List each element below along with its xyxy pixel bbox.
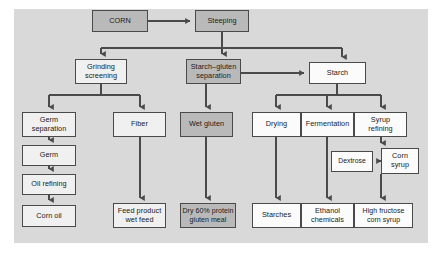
node-wet-gluten[interactable]: Wet gluten [180,112,233,137]
node-starch[interactable]: Starch [309,62,366,84]
node-feed-product-wet-feed[interactable]: Feed productwet feed [113,203,166,228]
node-ethanol-chemicals[interactable]: Ethanolchemicals [301,203,354,228]
node-high-fructose-corn-syrup[interactable]: High fructosecorn syrup [354,203,413,228]
node-grinding-screening[interactable]: Grindingscreening [75,59,127,84]
flowchart-canvas: CORN Steeping Grindingscreening Starch–g… [0,0,439,253]
node-starch-label: Starch [327,69,348,78]
node-starch-gluten-separation[interactable]: Starch–glutenseparation [186,59,241,84]
node-feed-product-wet-feed-label: Feed productwet feed [118,207,162,224]
node-corn-syrup-label: Cornsyrup [391,152,409,169]
node-steeping-label: Steeping [207,17,236,26]
node-germ-separation[interactable]: Germseparation [22,112,76,137]
node-fiber-label: Fiber [131,120,148,129]
node-oil-refining-label: Oil refining [31,180,66,189]
node-syrup-refining-label: Syruprefining [368,116,392,133]
node-high-fructose-corn-syrup-label: High fructosecorn syrup [363,207,405,224]
node-dextrose-label: Dextrose [338,157,366,166]
node-fiber[interactable]: Fiber [113,112,166,137]
node-steeping[interactable]: Steeping [195,10,249,32]
node-oil-refining[interactable]: Oil refining [22,174,76,195]
node-gluten-meal-label: Dry 60% proteingluten meal [183,207,234,224]
node-ethanol-chemicals-label: Ethanolchemicals [311,207,344,224]
node-gluten-meal[interactable]: Dry 60% proteingluten meal [180,203,236,228]
node-syrup-refining[interactable]: Syruprefining [354,112,407,137]
node-starches[interactable]: Starches [252,203,301,228]
node-corn[interactable]: CORN [92,10,148,32]
node-corn-oil-label: Corn oil [36,212,62,221]
node-starch-gluten-separation-label: Starch–glutenseparation [191,63,237,80]
node-germ-label: Germ [40,151,58,160]
node-germ[interactable]: Germ [22,145,76,166]
node-grinding-screening-label: Grindingscreening [85,63,117,80]
node-fermentation[interactable]: Fermentation [301,112,354,137]
node-drying-label: Drying [266,120,287,129]
node-starches-label: Starches [262,211,291,220]
node-corn-syrup[interactable]: Cornsyrup [381,148,419,174]
node-wet-gluten-label: Wet gluten [189,120,224,129]
node-fermentation-label: Fermentation [306,120,350,129]
node-dextrose[interactable]: Dextrose [331,151,373,172]
node-corn-oil[interactable]: Corn oil [22,205,76,227]
node-drying[interactable]: Drying [252,112,301,137]
node-germ-separation-label: Germseparation [32,116,67,133]
node-corn-label: CORN [109,17,131,26]
